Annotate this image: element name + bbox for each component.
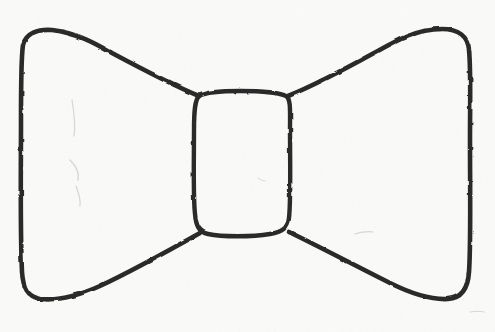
- sketch-canvas: [0, 0, 495, 332]
- bow-tie-drawing: [0, 0, 495, 332]
